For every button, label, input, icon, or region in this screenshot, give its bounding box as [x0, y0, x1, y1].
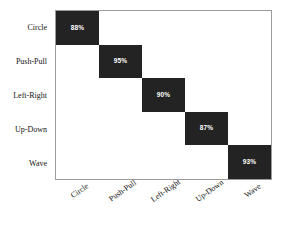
x-axis-tick-label: Push-Pull [107, 178, 138, 203]
y-axis-tick-label: Left-Right [0, 78, 51, 112]
matrix-cell [56, 112, 99, 146]
matrix-cell [56, 145, 99, 179]
matrix-cell: 93% [228, 145, 271, 179]
matrix-cell: 95% [99, 45, 142, 79]
cell-value-label: 93% [243, 159, 257, 166]
cell-value-label: 88% [71, 25, 85, 32]
matrix-cell [142, 145, 185, 179]
x-axis-tick-slot: Up-Down [185, 180, 228, 226]
matrix-cell: 87% [185, 112, 228, 146]
matrix-cell [99, 78, 142, 112]
cell-value-label: 87% [200, 125, 214, 132]
y-axis-tick-label: Circle [0, 10, 51, 44]
y-axis-tick-label: Up-Down [0, 112, 51, 146]
x-axis-tick-slot: Left-Right [142, 180, 185, 226]
matrix-cell [185, 11, 228, 45]
matrix-cell [228, 11, 271, 45]
matrix-cell [99, 145, 142, 179]
matrix-cell [99, 11, 142, 45]
x-axis-tick-label: Wave [243, 182, 263, 200]
x-axis-tick-label: Left-Right [150, 177, 183, 204]
y-axis-label-group: Circle Push-Pull Left-Right Up-Down Wave [0, 10, 51, 180]
matrix-cell [228, 45, 271, 79]
x-axis-tick-slot: Push-Pull [98, 180, 141, 226]
matrix-cell [142, 11, 185, 45]
matrix-cell: 88% [56, 11, 99, 45]
matrix-cell [228, 78, 271, 112]
cell-value-label: 95% [114, 58, 128, 65]
matrix-cell [228, 112, 271, 146]
matrix-cell [99, 112, 142, 146]
y-axis-tick-label: Push-Pull [0, 44, 51, 78]
x-axis-tick-label: Up-Down [194, 178, 225, 204]
x-axis-tick-slot: Circle [55, 180, 98, 226]
matrix-cell [185, 145, 228, 179]
matrix-cell [56, 45, 99, 79]
matrix-cell [185, 78, 228, 112]
cell-value-label: 90% [157, 92, 171, 99]
matrix-cell [142, 45, 185, 79]
y-axis-tick-label: Wave [0, 146, 51, 180]
matrix-cell [56, 78, 99, 112]
matrix-cell [185, 45, 228, 79]
x-axis-tick-label: Circle [69, 181, 90, 200]
x-axis-tick-slot: Wave [229, 180, 272, 226]
matrix-cell [142, 112, 185, 146]
matrix-grid: 88% 95% 90% 87% 93% [56, 11, 271, 179]
confusion-matrix-figure: Circle Push-Pull Left-Right Up-Down Wave… [0, 0, 293, 226]
matrix-cell: 90% [142, 78, 185, 112]
plot-area: 88% 95% 90% 87% 93% [55, 10, 272, 180]
x-axis-label-group: Circle Push-Pull Left-Right Up-Down Wave [55, 180, 272, 226]
